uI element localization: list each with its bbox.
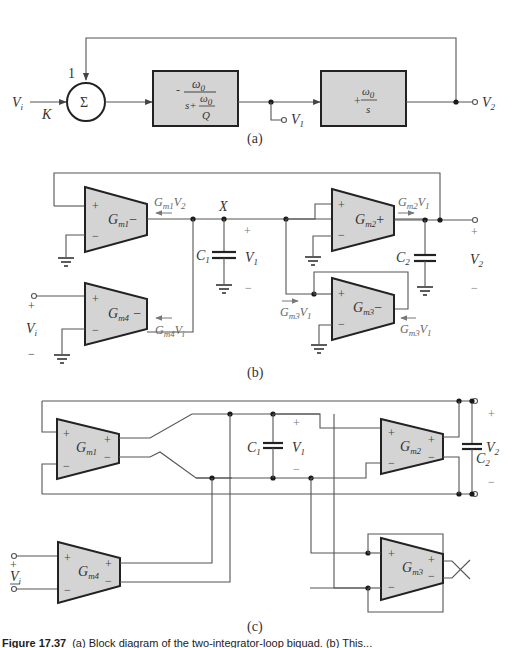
gm3-minus: − [338, 317, 345, 331]
block2-sign: + [354, 94, 361, 108]
c-c1-label: C1 [247, 440, 261, 457]
vi-minus: − [28, 347, 35, 361]
gm4-plus: + [92, 292, 99, 306]
input-label-vi: Vi [12, 95, 24, 112]
c-gm1-in-plus: + [63, 427, 70, 441]
block1-den-s: s+ [185, 99, 197, 111]
block1-den-q: Q [202, 109, 210, 121]
c-v1-plus: + [293, 416, 300, 430]
output-v2-label: V2 [482, 95, 496, 112]
gm2-plus: + [338, 198, 345, 212]
current-gm3v1-out-label: Gm3V1 [400, 322, 432, 338]
gm1-minus: − [92, 229, 99, 243]
v2-label: V2 [470, 252, 484, 269]
c-gm4-in-minus: − [64, 583, 71, 597]
integrator-block [321, 71, 406, 126]
c-gm1-out-minus: − [104, 450, 111, 464]
ota-c-circuit-b: + − Gm1− Gm1V2 X C1 + V1 − + − Gm4− + Vi [26, 173, 484, 381]
gm2-minus: − [338, 228, 345, 242]
c-gm2-in-minus: − [388, 456, 395, 470]
c-gm3-in-plus: + [388, 547, 395, 561]
c-vi-label: Vi [10, 569, 22, 586]
v1-minus: − [245, 281, 252, 295]
c-v2-plus: + [488, 407, 495, 421]
ground-icon [54, 355, 70, 363]
fully-differential-circuit-c: + − + − Gm1 C1 + V1 − + − + − Gm2 [10, 398, 500, 635]
c-gm3-out-plus: + [428, 553, 435, 567]
c-v1-label: V1 [292, 440, 305, 457]
v2-minus: − [471, 281, 478, 295]
feedback-gain-label: 1 [68, 66, 75, 81]
block-diagram-a: Vi K 1 Σ - ω0 s+ ω0 Q V1 + ω0 s V2 (a) [12, 38, 496, 147]
ground-icon [311, 345, 327, 353]
c-v2-label: V2 [486, 440, 500, 457]
ground-icon [216, 285, 232, 293]
c-gm2-out-minus: − [428, 450, 435, 464]
ground-icon [58, 258, 74, 266]
sub-label-a: (a) [247, 131, 263, 147]
vi-plus: + [28, 299, 35, 313]
current-gm4vi-label: Gm4Vi [155, 323, 185, 339]
c-v2-minus: − [488, 475, 495, 489]
ground-icon [305, 257, 321, 265]
summer-symbol: Σ [80, 95, 88, 110]
v2-plus: + [471, 225, 478, 239]
c-gm4-out-plus: + [105, 557, 112, 571]
node-x-label: X [218, 199, 228, 214]
c-gm4-out-minus: − [105, 574, 112, 588]
c-gm4-in-plus: + [64, 551, 71, 565]
block1-sign: - [176, 83, 180, 97]
c-gm1-out-plus: + [104, 433, 111, 447]
figure-caption: Figure 17.37(a) Block diagram of the two… [2, 637, 372, 648]
vi-label: Vi [26, 321, 38, 338]
sub-label-b: (b) [247, 365, 264, 381]
gm3-plus: + [338, 287, 345, 301]
c1-label: C1 [196, 248, 210, 265]
block2-den: s [366, 103, 370, 115]
current-gm1v2-label: Gm1V2 [154, 195, 186, 211]
c-v1-minus: − [293, 462, 300, 476]
gm1-plus: + [92, 199, 99, 213]
current-gm3v1-in-label: Gm3V1 [280, 305, 312, 321]
c-gm3-in-minus: − [388, 580, 395, 594]
c-gm1-in-minus: − [63, 459, 70, 473]
c-gm2-out-plus: + [428, 433, 435, 447]
sub-label-c: (c) [247, 619, 263, 635]
current-gm2v1-label: Gm2V1 [398, 195, 430, 211]
input-gain-label: K [41, 107, 52, 122]
v1-plus: + [244, 224, 251, 238]
c2-label: C2 [396, 250, 410, 267]
output-v1-label: V1 [291, 112, 304, 129]
gm4-minus: − [92, 323, 99, 337]
v1-label: V1 [245, 250, 258, 267]
circuit-diagram: Vi K 1 Σ - ω0 s+ ω0 Q V1 + ω0 s V2 (a) [0, 0, 517, 648]
c-gm2-in-plus: + [388, 426, 395, 440]
c-gm3-out-minus: − [428, 569, 435, 583]
ground-icon [417, 287, 433, 295]
